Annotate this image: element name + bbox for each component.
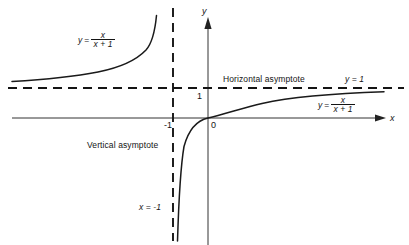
figure-container: y x 1 -1 0 Horizontal asymptote y = 1 Ve… <box>0 0 409 245</box>
curve-label-right-lhs: y <box>318 100 322 110</box>
curve-label-left-numerator: x <box>91 31 114 40</box>
graph-svg <box>0 0 409 245</box>
y-axis <box>204 17 211 245</box>
horizontal-asymptote-equation: y = 1 <box>345 74 364 84</box>
curve-label-left-lhs: y <box>78 35 82 45</box>
curve-label-right-equals: = <box>324 100 329 110</box>
curve-label-right: y = x x + 1 <box>318 96 355 115</box>
y-axis-name-label: y <box>202 6 207 16</box>
x-axis <box>12 114 386 121</box>
y-tick-label-one: 1 <box>197 91 202 101</box>
curve-label-left-fraction: x x + 1 <box>91 31 114 50</box>
x-axis-name-label: x <box>390 113 395 123</box>
horizontal-asymptote-label: Horizontal asymptote <box>223 74 305 84</box>
vertical-asymptote-equation: x = -1 <box>139 202 161 212</box>
curve-label-left-equals: = <box>84 35 89 45</box>
x-tick-label-minus-one: -1 <box>164 120 172 130</box>
curve-label-right-numerator: x <box>331 96 354 105</box>
curve-label-right-denominator: x + 1 <box>331 104 354 114</box>
curve-label-left-denominator: x + 1 <box>91 39 114 49</box>
vertical-asymptote-label: Vertical asymptote <box>87 140 158 150</box>
origin-label: 0 <box>211 120 216 130</box>
curve-label-right-fraction: x x + 1 <box>331 96 354 115</box>
curve-label-left: y = x x + 1 <box>78 31 115 50</box>
